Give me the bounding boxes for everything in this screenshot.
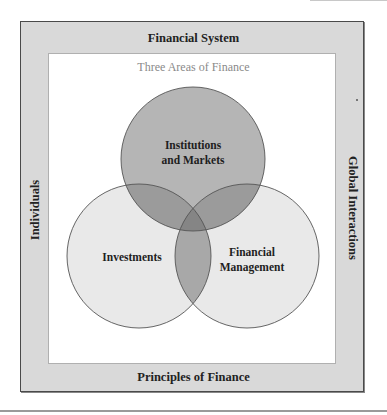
bottom-rule — [0, 410, 387, 412]
financial-management-label: Financial Management — [220, 245, 285, 275]
investments-label-line1: Investments — [102, 250, 161, 265]
scan-speck — [356, 99, 358, 101]
institutions-label-line2: and Markets — [162, 153, 225, 168]
venn-diagram — [0, 0, 387, 415]
financial-management-label-line2: Management — [220, 260, 285, 275]
institutions-and-markets-label: Institutions and Markets — [162, 138, 225, 168]
investments-label: Investments — [102, 250, 161, 265]
institutions-label-line1: Institutions — [162, 138, 225, 153]
financial-management-label-line1: Financial — [220, 245, 285, 260]
